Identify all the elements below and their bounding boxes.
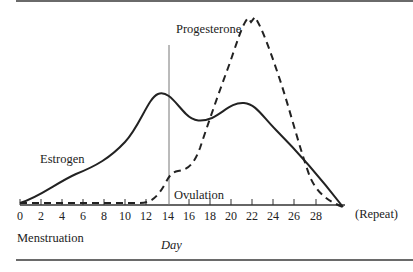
tick-label: 20 — [225, 210, 237, 222]
tick-label: 0 — [17, 210, 23, 222]
menstruation-label: Menstruation — [17, 232, 84, 245]
tick-label: 10 — [119, 210, 131, 222]
progesterone-label: Progesterone — [176, 23, 241, 36]
x-axis-title: Day — [161, 239, 182, 252]
x-axis-ticks — [20, 199, 316, 205]
tick-label: 14 — [162, 210, 174, 222]
tick-label: 22 — [246, 210, 258, 222]
tick-label: 4 — [59, 210, 65, 222]
tick-label: 12 — [140, 210, 152, 222]
tick-label: 18 — [204, 210, 216, 222]
repeat-label: (Repeat) — [355, 208, 398, 221]
tick-label: 6 — [80, 210, 86, 222]
tick-label: 24 — [267, 210, 279, 222]
tick-label: 26 — [288, 210, 300, 222]
bottom-rule — [16, 259, 413, 261]
ovulation-label: Ovulation — [174, 189, 224, 202]
estrogen-label: Estrogen — [40, 153, 84, 166]
tick-label: 28 — [310, 210, 322, 222]
tick-label: 16 — [183, 210, 195, 222]
tick-label: 8 — [101, 210, 107, 222]
tick-label: 2 — [38, 210, 44, 222]
